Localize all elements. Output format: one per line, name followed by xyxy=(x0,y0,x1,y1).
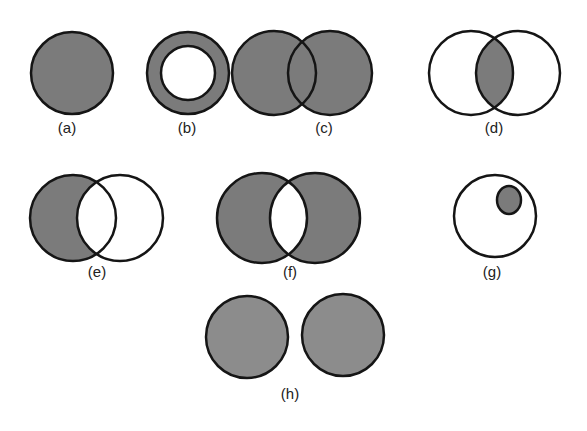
panel-c-union xyxy=(232,31,372,115)
label-a: (a) xyxy=(58,119,76,136)
label-c: (c) xyxy=(315,119,333,136)
panel-d-intersection xyxy=(429,31,560,115)
panel-b-ring xyxy=(147,32,229,114)
panel-e-difference xyxy=(30,175,163,261)
label-f: (f) xyxy=(283,263,297,280)
label-g: (g) xyxy=(483,263,501,280)
venn-diagram-figure xyxy=(0,0,587,431)
label-h: (h) xyxy=(281,385,299,402)
label-d: (d) xyxy=(485,119,503,136)
panel-h-disjoint xyxy=(206,294,384,378)
panel-g-subset xyxy=(454,175,536,257)
panel-f-symmetric-difference xyxy=(217,173,360,263)
label-e: (e) xyxy=(88,263,106,280)
panel-a-single-set xyxy=(31,32,113,114)
label-b: (b) xyxy=(178,119,196,136)
